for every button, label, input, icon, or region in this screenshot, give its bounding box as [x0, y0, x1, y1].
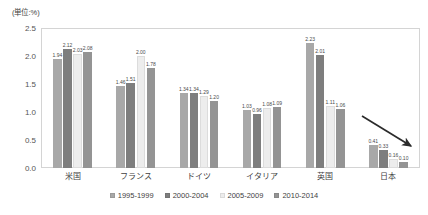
x-axis-labels: 米国フランスドイツイタリア英国日本 — [41, 170, 420, 186]
y-axis-tick: 0.5 — [25, 136, 36, 145]
x-axis-category-label: イタリア — [246, 170, 278, 181]
legend-item[interactable]: 1995-1999 — [110, 191, 154, 200]
bar[interactable]: 0.10 — [399, 28, 408, 168]
bar[interactable]: 0.33 — [379, 28, 388, 168]
bar-rect — [147, 68, 156, 168]
bar[interactable]: 0.16 — [389, 28, 398, 168]
bar-value-label: 1.34 — [179, 87, 189, 93]
bar-rect — [116, 86, 125, 168]
bar-value-label: 1.06 — [336, 103, 346, 109]
bar[interactable]: 1.09 — [273, 28, 282, 168]
bar-value-label: 1.20 — [209, 95, 219, 101]
legend-swatch-icon — [274, 193, 279, 198]
bar[interactable]: 1.03 — [243, 28, 252, 168]
legend-item[interactable]: 2000-2004 — [165, 191, 209, 200]
bar[interactable]: 1.94 — [53, 28, 62, 168]
bar-rect — [336, 109, 345, 168]
bar-rect — [126, 83, 135, 168]
bar-value-label: 0.16 — [389, 153, 399, 159]
bar[interactable]: 2.23 — [306, 28, 315, 168]
bar-rect — [253, 114, 262, 168]
bar-value-label: 1.46 — [116, 80, 126, 86]
bar-rect — [53, 59, 62, 168]
bar-rect — [306, 43, 315, 168]
y-axis-tick: 1.0 — [25, 108, 36, 117]
legend-swatch-icon — [220, 193, 225, 198]
x-axis-category-label: フランス — [120, 170, 152, 181]
bar-rect — [263, 108, 272, 168]
bar[interactable]: 2.01 — [316, 28, 325, 168]
bar-rect — [273, 107, 282, 168]
bar-rect — [389, 159, 398, 168]
bar-rect — [326, 106, 335, 168]
bar-value-label: 2.03 — [73, 48, 83, 54]
bar-group: 1.030.961.081.09 — [243, 28, 282, 168]
legend-label: 1995-1999 — [118, 191, 154, 200]
bar-value-label: 1.94 — [53, 53, 63, 59]
bar-rect — [73, 54, 82, 168]
x-axis-category-label: 日本 — [380, 170, 396, 181]
x-axis-category-label: 米国 — [65, 170, 81, 181]
bar-value-label: 2.12 — [63, 43, 73, 49]
y-axis-tick: 2.0 — [25, 52, 36, 61]
legend-item[interactable]: 2010-2014 — [274, 191, 318, 200]
bar-rect — [243, 110, 252, 168]
bar[interactable]: 0.96 — [253, 28, 262, 168]
bars-layer: 1.942.122.032.081.461.512.001.781.341.34… — [41, 28, 420, 168]
bar-group: 1.942.122.032.08 — [53, 28, 92, 168]
bar[interactable]: 1.11 — [326, 28, 335, 168]
bar[interactable]: 2.12 — [63, 28, 72, 168]
bar-rect — [180, 93, 189, 168]
bar-rect — [190, 93, 199, 168]
bar-rect — [369, 145, 378, 168]
y-axis-tick: 1.5 — [25, 80, 36, 89]
bar[interactable]: 1.51 — [126, 28, 135, 168]
bar[interactable]: 1.29 — [200, 28, 209, 168]
bar[interactable]: 1.06 — [336, 28, 345, 168]
unit-note: (単位:%) — [12, 6, 40, 17]
bar-value-label: 1.11 — [326, 100, 335, 106]
bar[interactable]: 0.41 — [369, 28, 378, 168]
bar-group: 1.461.512.001.78 — [116, 28, 155, 168]
y-axis-tick: 2.5 — [25, 24, 36, 33]
legend-swatch-icon — [110, 193, 115, 198]
legend-item[interactable]: 2005-2009 — [220, 191, 264, 200]
bar-value-label: 2.01 — [315, 49, 325, 55]
bar-value-label: 0.96 — [252, 108, 262, 114]
legend-label: 2010-2014 — [282, 191, 318, 200]
bar[interactable]: 1.34 — [180, 28, 189, 168]
bar[interactable]: 2.08 — [83, 28, 92, 168]
y-axis: 0.00.51.01.52.02.5 — [0, 28, 41, 168]
legend-label: 2000-2004 — [173, 191, 209, 200]
bar[interactable]: 2.00 — [137, 28, 146, 168]
bar-rect — [399, 162, 408, 168]
bar-value-label: 1.78 — [146, 62, 156, 68]
bar-rect — [63, 49, 72, 168]
bar[interactable]: 2.03 — [73, 28, 82, 168]
bar[interactable]: 1.08 — [263, 28, 272, 168]
bar-value-label: 2.23 — [305, 37, 315, 43]
bar-group: 1.341.341.291.20 — [180, 28, 219, 168]
bar-rect — [137, 56, 146, 168]
bar-rect — [200, 96, 209, 168]
bar-rect — [210, 101, 219, 168]
bar-group: 2.232.011.111.06 — [306, 28, 345, 168]
bar-value-label: 2.00 — [136, 50, 146, 56]
bar[interactable]: 1.78 — [147, 28, 156, 168]
bar-value-label: 1.08 — [262, 102, 272, 108]
bar-value-label: 1.03 — [242, 104, 252, 110]
legend-swatch-icon — [165, 193, 170, 198]
chart-container: (単位:%) 0.00.51.01.52.02.5 1.942.122.032.… — [0, 0, 428, 215]
legend-label: 2005-2009 — [228, 191, 264, 200]
bar-value-label: 2.08 — [83, 46, 93, 52]
bar-group: 0.410.330.160.10 — [369, 28, 408, 168]
bar[interactable]: 1.20 — [210, 28, 219, 168]
bar[interactable]: 1.46 — [116, 28, 125, 168]
bar-value-label: 1.09 — [272, 101, 282, 107]
bar-value-label: 0.10 — [399, 156, 409, 162]
bar-value-label: 1.51 — [126, 77, 136, 83]
bar-value-label: 1.29 — [199, 90, 209, 96]
bar[interactable]: 1.34 — [190, 28, 199, 168]
y-axis-tick: 0.0 — [25, 164, 36, 173]
bar-value-label: 1.34 — [189, 87, 199, 93]
